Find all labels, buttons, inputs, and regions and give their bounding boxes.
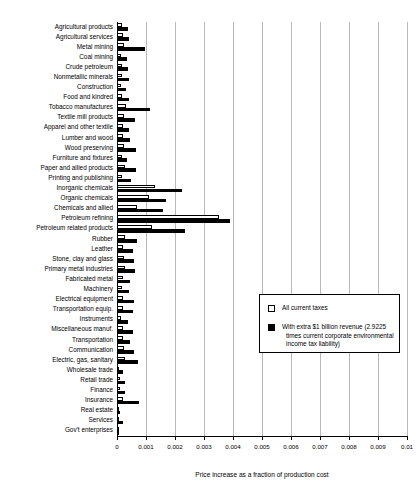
- legend-label-all-current-taxes: All current taxes: [282, 304, 402, 313]
- category-label: Chemicals and allied: [54, 203, 113, 213]
- x-tick: [407, 436, 408, 440]
- x-tick-label: 0.01: [387, 443, 417, 450]
- chart-container: 00.0010.0020.0030.0040.0050.0060.0070.00…: [0, 0, 417, 495]
- category-label: Miscellaneous manuf.: [51, 324, 113, 334]
- category-label: Inorganic chemicals: [57, 183, 113, 193]
- category-label: Transportation equip.: [53, 304, 113, 314]
- bar-extra-revenue: [117, 259, 134, 263]
- bar-row: Insurance: [0, 396, 417, 406]
- bar-extra-revenue: [117, 168, 136, 172]
- bar-row: Petroleum related products: [0, 224, 417, 234]
- bar-row: Services: [0, 416, 417, 426]
- bar-extra-revenue: [117, 98, 129, 102]
- bar-extra-revenue: [117, 209, 163, 213]
- bar-extra-revenue: [117, 108, 150, 112]
- bar-extra-revenue: [117, 391, 125, 395]
- x-tick: [175, 436, 176, 440]
- category-label: Electric, gas, sanitary: [52, 355, 113, 365]
- bar-extra-revenue: [117, 239, 137, 243]
- bar-extra-revenue: [117, 381, 125, 385]
- category-label: Textile mill products: [57, 112, 113, 122]
- bar-extra-revenue: [117, 219, 230, 223]
- category-label: Paper and allied products: [41, 163, 113, 173]
- bar-extra-revenue: [117, 431, 119, 435]
- bar-row: Nonmetallic minerals: [0, 72, 417, 82]
- bar-row: Printing and publishing: [0, 173, 417, 183]
- bar-row: Metal mining: [0, 42, 417, 52]
- category-label: Crude petroleum: [65, 62, 113, 72]
- bar-row: Chemicals and allied: [0, 204, 417, 214]
- bar-row: Organic chemicals: [0, 194, 417, 204]
- bar-row: Petroleum refining: [0, 214, 417, 224]
- bar-extra-revenue: [117, 27, 128, 31]
- bar-row: Retail trade: [0, 375, 417, 385]
- category-label: Fabricated metal: [65, 274, 113, 284]
- category-label: Food and kindred: [63, 92, 113, 102]
- category-label: Retail trade: [80, 375, 113, 385]
- x-tick: [291, 436, 292, 440]
- bar-extra-revenue: [117, 330, 133, 334]
- legend-swatch-black-icon: [268, 324, 275, 331]
- category-label: Printing and publishing: [48, 173, 113, 183]
- bar-row: Construction: [0, 83, 417, 93]
- bar-row: Wood preserving: [0, 143, 417, 153]
- bar-extra-revenue: [117, 310, 133, 314]
- bar-extra-revenue: [117, 138, 130, 142]
- bar-row: Coal mining: [0, 52, 417, 62]
- category-label: Gov't enterprises: [65, 425, 113, 435]
- category-label: Rubber: [92, 234, 113, 244]
- category-label: Real estate: [81, 405, 113, 415]
- bar-extra-revenue: [117, 370, 123, 374]
- bar-row: Food and kindred: [0, 93, 417, 103]
- bar-extra-revenue: [117, 401, 139, 405]
- bar-extra-revenue: [117, 57, 127, 61]
- bar-extra-revenue: [117, 290, 129, 294]
- category-label: Electrical equipment: [55, 294, 113, 304]
- category-label: Nonmetallic minerals: [54, 72, 113, 82]
- legend-swatch-white-icon: [268, 305, 275, 312]
- bar-extra-revenue: [117, 158, 127, 162]
- category-label: Services: [88, 415, 113, 425]
- bar-extra-revenue: [117, 199, 166, 203]
- category-label: Agricultural services: [56, 32, 113, 42]
- bar-extra-revenue: [117, 67, 128, 71]
- bar-extra-revenue: [117, 148, 136, 152]
- legend-label-extra-revenue: With extra $1 billion revenue (2.9225 ti…: [282, 323, 402, 349]
- bar-extra-revenue: [117, 78, 129, 82]
- bar-row: Stone, clay and glass: [0, 254, 417, 264]
- category-label: Coal mining: [79, 52, 113, 62]
- bar-extra-revenue: [117, 118, 135, 122]
- bar-row: Gov't enterprises: [0, 426, 417, 436]
- category-label: Finance: [90, 385, 113, 395]
- category-label: Leather: [91, 244, 113, 254]
- x-tick: [117, 436, 118, 440]
- x-tick: [233, 436, 234, 440]
- bar-row: Electric, gas, sanitary: [0, 355, 417, 365]
- x-tick: [378, 436, 379, 440]
- category-label: Wood preserving: [65, 143, 113, 153]
- legend-label-line-2: times current corporate environmental: [282, 332, 402, 341]
- category-label: Primary metal industries: [44, 264, 113, 274]
- x-tick: [204, 436, 205, 440]
- bar-extra-revenue: [117, 320, 128, 324]
- bar-row: Tobacco manufactures: [0, 103, 417, 113]
- x-tick: [262, 436, 263, 440]
- bar-row: Agricultural products: [0, 22, 417, 32]
- bar-extra-revenue: [117, 340, 130, 344]
- bar-row: Leather: [0, 244, 417, 254]
- bar-row: Inorganic chemicals: [0, 184, 417, 194]
- legend-label-line-3: income tax liability): [282, 340, 402, 349]
- bar-row: Lumber and wood: [0, 133, 417, 143]
- bar-row: Finance: [0, 386, 417, 396]
- bar-row: Furniture and fixtures: [0, 153, 417, 163]
- bar-row: Wholesale trade: [0, 365, 417, 375]
- x-tick: [146, 436, 147, 440]
- bar-extra-revenue: [117, 269, 135, 273]
- bar-extra-revenue: [117, 350, 134, 354]
- bar-extra-revenue: [117, 249, 133, 253]
- category-label: Organic chemicals: [60, 193, 113, 203]
- bar-row: Agricultural services: [0, 32, 417, 42]
- bar-extra-revenue: [117, 229, 185, 233]
- bar-extra-revenue: [117, 300, 134, 304]
- category-label: Transportation: [72, 335, 113, 345]
